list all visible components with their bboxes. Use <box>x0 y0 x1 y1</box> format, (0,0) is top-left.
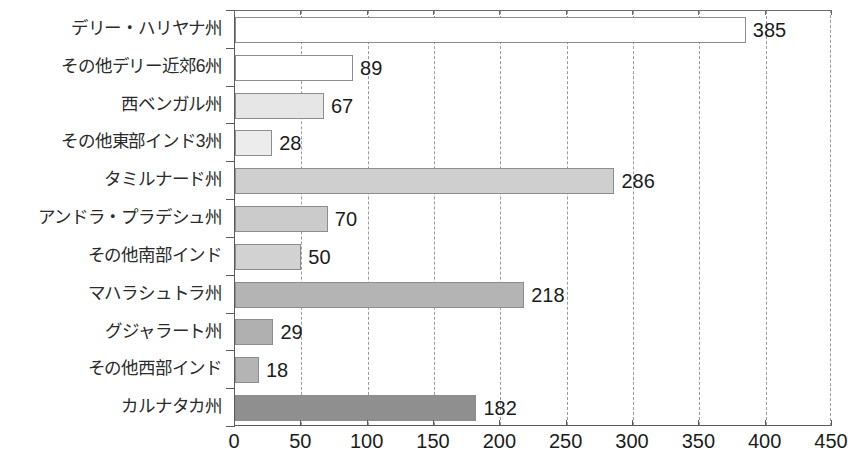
x-tick-bottom <box>698 420 699 426</box>
bar-chart: デリー・ハリヤナ州その他デリー近郊6州西ベンガル州その他東部インド3州タミルナー… <box>0 0 848 468</box>
x-tick-top <box>234 10 235 15</box>
x-tick-bottom <box>367 420 368 426</box>
x-tick-top <box>433 10 434 15</box>
gridline-400 <box>766 11 767 425</box>
gridline-200 <box>500 11 501 425</box>
gridline-250 <box>567 11 568 425</box>
x-tick-bottom <box>566 420 567 426</box>
category-tick <box>226 426 235 427</box>
bar-value-label: 70 <box>328 206 357 232</box>
category-label: デリー・ハリヤナ州 <box>71 10 222 48</box>
bar-value-label: 89 <box>353 55 382 81</box>
gridline-300 <box>633 11 634 425</box>
bar-value-label: 286 <box>614 168 654 194</box>
bar-value-label: 28 <box>272 130 301 156</box>
bar <box>235 130 272 156</box>
bar <box>235 206 328 232</box>
x-axis-label: 350 <box>682 430 715 453</box>
gridline-350 <box>699 11 700 425</box>
bar-value-label: 385 <box>746 17 786 43</box>
bar <box>235 55 353 81</box>
x-tick-top <box>566 10 567 15</box>
category-label: カルナタカ州 <box>121 388 222 426</box>
bar <box>235 244 301 270</box>
x-tick-bottom <box>499 420 500 426</box>
x-tick-top <box>367 10 368 15</box>
x-tick-top <box>698 10 699 15</box>
x-tick-bottom <box>632 420 633 426</box>
x-tick-bottom <box>433 420 434 426</box>
bar-value-label: 18 <box>259 357 288 383</box>
gridline-150 <box>434 11 435 425</box>
x-axis-label: 300 <box>615 430 648 453</box>
x-tick-bottom <box>831 420 832 426</box>
x-axis-label: 200 <box>483 430 516 453</box>
bar-value-label: 182 <box>476 395 516 421</box>
bar <box>235 168 614 194</box>
bar-value-label: 67 <box>324 93 353 119</box>
x-tick-top <box>765 10 766 15</box>
bar <box>235 93 324 119</box>
x-axis-label: 400 <box>748 430 781 453</box>
x-axis-label: 100 <box>350 430 383 453</box>
category-label: アンドラ・プラデシュ州 <box>38 199 222 237</box>
x-tick-top <box>632 10 633 15</box>
category-label: 西ベンガル州 <box>121 86 222 124</box>
x-tick-bottom <box>300 420 301 426</box>
bar-value-label: 218 <box>524 282 564 308</box>
category-label: その他デリー近郊6州 <box>61 48 222 86</box>
category-label: その他南部インド <box>88 237 222 275</box>
category-label: その他東部インド3州 <box>61 123 222 161</box>
x-tick-bottom <box>234 420 235 426</box>
category-label: グジャラート州 <box>105 313 222 351</box>
x-axis-label: 50 <box>289 430 311 453</box>
x-tick-bottom <box>765 420 766 426</box>
category-label: タミルナード州 <box>104 161 222 199</box>
x-tick-top <box>300 10 301 15</box>
bar <box>235 319 273 345</box>
category-axis-labels: デリー・ハリヤナ州その他デリー近郊6州西ベンガル州その他東部インド3州タミルナー… <box>0 10 228 426</box>
x-axis-tick-labels: 050100150200250300350400450 <box>234 430 831 464</box>
x-axis-label: 250 <box>549 430 582 453</box>
bar <box>235 282 524 308</box>
x-axis-label: 150 <box>416 430 449 453</box>
category-label: マハラシュトラ州 <box>88 275 222 313</box>
bar <box>235 17 746 43</box>
bar-value-label: 50 <box>301 244 330 270</box>
bar <box>235 395 476 421</box>
bar-value-label: 29 <box>273 319 302 345</box>
bar <box>235 357 259 383</box>
plot-area: 38589672828670502182918182 <box>234 10 831 426</box>
x-axis-label: 0 <box>228 430 239 453</box>
x-tick-top <box>499 10 500 15</box>
x-axis-label: 450 <box>814 430 847 453</box>
x-tick-top <box>831 10 832 15</box>
category-label: その他西部インド <box>88 350 222 388</box>
